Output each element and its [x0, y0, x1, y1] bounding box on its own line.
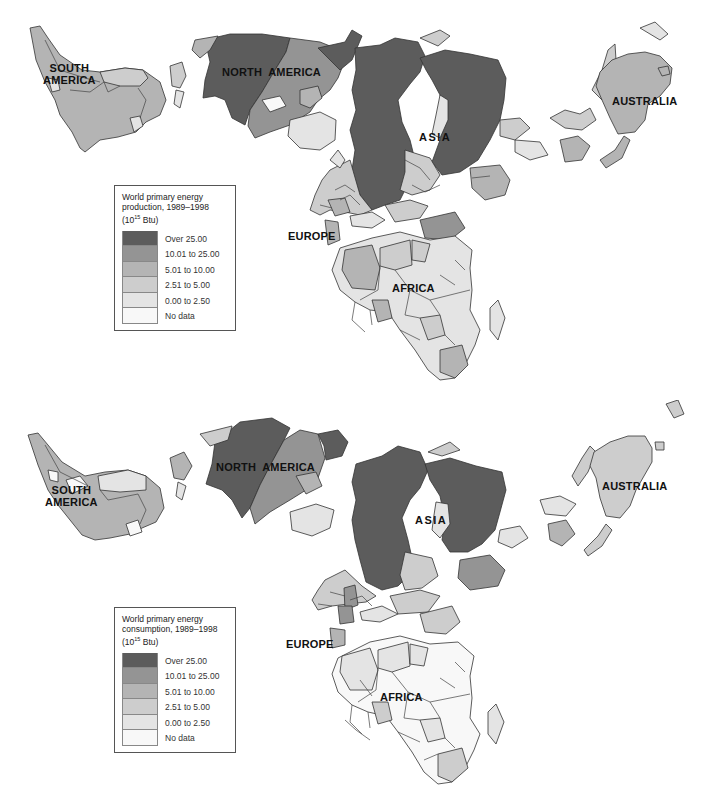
- asia-label: ASIA: [419, 131, 451, 143]
- production-cartogram: SOUTH AMERICA NORTH AMERICA ASIA AUSTRAL…: [0, 0, 706, 400]
- legend-swatch: [122, 308, 158, 324]
- production-map-shapes: [0, 0, 706, 400]
- legend-swatch: [122, 715, 158, 731]
- australia-label: AUSTRALIA: [602, 480, 667, 492]
- australia-shape: [590, 436, 652, 518]
- legend-item-5-10: 5.01 to 10.00: [122, 684, 229, 700]
- legend-swatch: [122, 653, 158, 669]
- legend-item-10-25: 10.01 to 25.00: [122, 668, 229, 684]
- legend-swatch: [122, 262, 158, 278]
- south-america-shape: [30, 26, 166, 152]
- legend-swatch: [122, 277, 158, 293]
- legend-item-2-5: 2.51 to 5.00: [122, 277, 229, 293]
- north-america-label: NORTH AMERICA: [222, 66, 321, 78]
- consumption-legend: World primary energy consumption, 1989–1…: [114, 607, 236, 753]
- south-america-label: SOUTH AMERICA: [45, 484, 98, 508]
- legend-swatch: [122, 293, 158, 309]
- legend-item-5-10: 5.01 to 10.00: [122, 262, 229, 278]
- consumption-map-shapes: [0, 400, 706, 799]
- legend-item-no-data: No data: [122, 730, 229, 746]
- legend-item-10-25: 10.01 to 25.00: [122, 246, 229, 262]
- legend-title: World primary energy consumption, 1989–1…: [122, 614, 229, 647]
- australia-label: AUSTRALIA: [612, 95, 677, 107]
- north-america-label: NORTH AMERICA: [216, 461, 315, 473]
- consumption-cartogram: SOUTH AMERICA NORTH AMERICA ASIA AUSTRAL…: [0, 400, 706, 799]
- legend-swatch: [122, 699, 158, 715]
- legend-title: World primary energy production, 1989–19…: [122, 192, 229, 225]
- legend-swatch: [122, 684, 158, 700]
- legend-item-0-2: 0.00 to 2.50: [122, 293, 229, 309]
- africa-label: AFRICA: [380, 691, 423, 703]
- asia-label: ASIA: [415, 514, 447, 526]
- production-legend: World primary energy production, 1989–19…: [114, 185, 236, 331]
- legend-item-over-25: Over 25.00: [122, 653, 229, 669]
- europe-label: EUROPE: [288, 230, 336, 242]
- europe-label: EUROPE: [286, 638, 334, 650]
- legend-swatch: [122, 246, 158, 262]
- australia-shape: [596, 52, 672, 134]
- legend-item-over-25: Over 25.00: [122, 231, 229, 247]
- legend-item-0-2: 0.00 to 2.50: [122, 715, 229, 731]
- legend-swatch: [122, 231, 158, 247]
- legend-swatch: [122, 668, 158, 684]
- africa-label: AFRICA: [392, 282, 435, 294]
- legend-item-no-data: No data: [122, 308, 229, 324]
- south-america-label: SOUTH AMERICA: [43, 62, 96, 86]
- legend-item-2-5: 2.51 to 5.00: [122, 699, 229, 715]
- legend-swatch: [122, 730, 158, 746]
